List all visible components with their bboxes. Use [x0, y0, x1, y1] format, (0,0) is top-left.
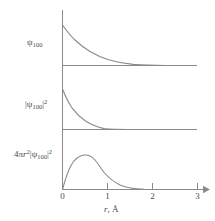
- x-tick-label-3: 3: [191, 192, 205, 201]
- psi-subscript: 100: [33, 41, 43, 48]
- x-axis-title: r, Å: [104, 205, 119, 214]
- panel-label-probability-density: |ψ100|2: [25, 99, 47, 111]
- curves-group: [63, 25, 198, 190]
- radial-superscript: 2: [49, 148, 52, 155]
- psi-sq-superscript: 2: [44, 98, 47, 105]
- psi-sq-subscript: 100: [32, 103, 42, 110]
- curve-radial-distribution: [63, 155, 198, 190]
- x-axis-title-unit: , Å: [108, 204, 119, 214]
- x-axis-ticks: [63, 183, 198, 190]
- figure-hydrogen-1s-orbital-plots: ψ100 |ψ100|2 4πr2|ψ100|2 0 1 2 3 r, Å: [0, 0, 215, 221]
- axes-group: [63, 10, 211, 193]
- x-tick-label-1: 1: [101, 192, 115, 201]
- radial-coefficient: 4π: [14, 149, 23, 159]
- plot-canvas: [0, 0, 215, 221]
- x-tick-label-0: 0: [56, 192, 70, 201]
- curve-wavefunction: [63, 25, 198, 66]
- curve-probability-density: [63, 89, 198, 130]
- panel-label-wavefunction: ψ100: [27, 38, 42, 49]
- panel-label-radial-distribution: 4πr2|ψ100|2: [14, 149, 52, 161]
- x-tick-label-2: 2: [146, 192, 160, 201]
- radial-psi-subscript: 100: [37, 153, 47, 160]
